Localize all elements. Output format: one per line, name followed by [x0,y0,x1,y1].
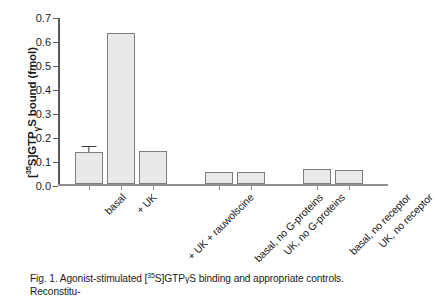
y-tick-mark [53,66,58,67]
y-tick-label: 0.6 [21,37,51,48]
caption-prefix: Fig. 1. Agonist-stimulated [ [30,273,147,284]
bar [139,151,167,185]
x-tick-mark [349,186,350,190]
y-tick-label: 0.4 [21,85,51,96]
x-tick-mark [219,186,220,190]
y-tick-mark [53,42,58,43]
y-tick-mark [53,162,58,163]
y-axis-line [58,18,60,186]
y-tick-label: 0.7 [21,13,51,24]
y-tick-mark [53,114,58,115]
x-tick-mark [121,186,122,190]
y-tick-mark [53,90,58,91]
bar [237,172,265,184]
bar [107,33,135,184]
figure-caption: Fig. 1. Agonist-stimulated [35S]GTPγS bi… [30,272,378,299]
x-tick-mark [317,186,318,190]
y-tick-label: 0.3 [21,109,51,120]
x-tick-mark [153,186,154,190]
x-tick-label: + UK [134,191,159,216]
x-tick-mark [89,186,90,190]
caption-superscript: 35 [147,272,155,279]
y-tick-mark [53,18,58,19]
error-bar [75,147,103,184]
y-tick-mark [53,186,58,187]
error-bar-cap [82,146,97,147]
y-tick-label: 0.2 [21,133,51,144]
y-tick-mark [53,138,58,139]
x-tick-label: + UK + rauwolscine [185,191,256,262]
caption-middle: S]GTP [155,273,185,284]
error-bar-stem [88,147,89,152]
bar [303,169,331,185]
x-tick-label: basal [102,191,128,217]
bar [205,172,233,184]
x-axis-baseline [58,184,388,186]
y-tick-label: 0.0 [21,181,51,192]
bar [335,170,363,184]
y-axis-title-open: [ [26,174,38,178]
y-tick-label: 0.1 [21,157,51,168]
plot-area: 0.00.10.20.30.40.50.60.7 [58,18,388,186]
y-tick-label: 0.5 [21,61,51,72]
x-tick-mark [251,186,252,190]
